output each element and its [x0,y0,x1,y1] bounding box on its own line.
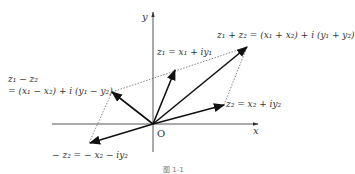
label-diff-line2: = (x₁ − x₂) + i (y₁ − y₂) [8,86,113,96]
origin-label: O [157,128,165,139]
x-axis-label: x [253,125,259,136]
vector-diff [112,92,153,124]
vectors [90,47,247,143]
vector-neg-z2 [90,124,153,143]
label-z1: z₁ = x₁ + iy₁ [157,47,212,57]
label-diff-line1: z₁ − z₂ [8,74,38,84]
label-z2: z₂ = x₂ + iy₂ [226,99,281,109]
figure-caption: 图 1-1 [163,164,184,174]
guide-diff-to-negz2 [89,92,112,143]
y-axis-label: y [142,11,148,22]
vector-sum [153,47,247,124]
label-sum: z₁ + z₂ = (x₁ + x₂) + i (y₁ + y₂) [217,30,355,40]
label-neg-z2: − z₂ = − x₂ − iy₂ [52,150,128,160]
